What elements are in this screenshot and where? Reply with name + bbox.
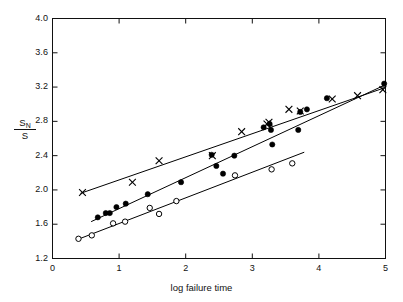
x-tick-label: 2 bbox=[174, 263, 198, 273]
fit-lines bbox=[77, 85, 384, 239]
y-tick-label: 2.0 bbox=[20, 184, 48, 194]
data-markers bbox=[76, 81, 387, 241]
x-axis-label: log failure time bbox=[0, 282, 403, 293]
y-tick-label: 1.6 bbox=[20, 218, 48, 228]
x-tick-label: 4 bbox=[307, 263, 331, 273]
y-axis-label-numerator: SN bbox=[12, 118, 38, 128]
y-tick-label: 4.0 bbox=[20, 13, 48, 23]
y-tick-label: 3.6 bbox=[20, 47, 48, 57]
y-tick-label: 1.2 bbox=[20, 253, 48, 263]
x-tick-label: 5 bbox=[374, 263, 398, 273]
x-tick-label: 3 bbox=[240, 263, 264, 273]
y-axis-label-subscript: N bbox=[26, 122, 31, 129]
plot-canvas bbox=[0, 0, 403, 302]
y-axis-label-denominator: S bbox=[12, 131, 38, 141]
y-axis-label: SN S bbox=[12, 118, 38, 141]
tick-marks bbox=[53, 19, 386, 259]
x-tick-label: 0 bbox=[41, 263, 65, 273]
x-tick-label: 1 bbox=[107, 263, 131, 273]
y-tick-label: 3.2 bbox=[20, 81, 48, 91]
figure-scatter-plot: 1.21.62.02.42.83.23.64.0012345 SN S log … bbox=[0, 0, 403, 302]
axis-frame bbox=[53, 19, 386, 259]
y-tick-label: 2.4 bbox=[20, 150, 48, 160]
